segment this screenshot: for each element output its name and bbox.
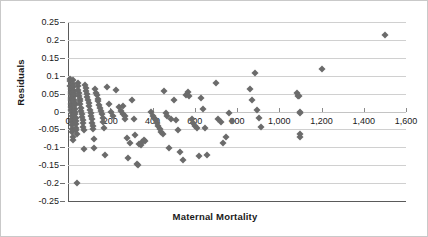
gridline bbox=[68, 76, 406, 77]
x-tick-mark bbox=[406, 108, 407, 112]
data-point bbox=[120, 102, 127, 109]
y-tick-label: -0.15 bbox=[38, 160, 59, 170]
y-tick-mark bbox=[60, 76, 65, 77]
x-tick-label: 1,400 bbox=[352, 116, 375, 126]
gridline bbox=[68, 22, 406, 23]
x-tick-mark bbox=[322, 108, 323, 112]
data-point bbox=[176, 148, 183, 155]
y-tick-label: -0.1 bbox=[43, 142, 59, 152]
x-tick-mark bbox=[237, 108, 238, 112]
data-point bbox=[318, 65, 325, 72]
data-point bbox=[246, 86, 253, 93]
data-point bbox=[173, 117, 180, 124]
y-tick-mark bbox=[60, 112, 65, 113]
plot-area: 02004006008001,0001,2001,4001,600 bbox=[68, 22, 406, 201]
data-point bbox=[222, 133, 229, 140]
data-point bbox=[127, 139, 134, 146]
y-tick-mark bbox=[60, 40, 65, 41]
y-tick-mark bbox=[60, 165, 65, 166]
data-point bbox=[203, 152, 210, 159]
data-point bbox=[256, 114, 263, 121]
data-point bbox=[90, 126, 97, 133]
data-point bbox=[102, 151, 109, 158]
y-tick-label: -0.25 bbox=[38, 196, 59, 206]
x-tick-label: 1,600 bbox=[395, 116, 418, 126]
data-point bbox=[106, 101, 113, 108]
y-tick-label: 0.25 bbox=[41, 17, 59, 27]
data-point bbox=[91, 145, 98, 152]
data-point bbox=[381, 32, 388, 39]
y-tick-label: 0.15 bbox=[41, 53, 59, 63]
y-tick-mark bbox=[60, 201, 65, 202]
gridline bbox=[68, 147, 406, 148]
data-point bbox=[165, 144, 172, 151]
y-tick-mark bbox=[60, 94, 65, 95]
y-tick-mark bbox=[60, 22, 65, 23]
data-point bbox=[174, 127, 181, 134]
data-point bbox=[134, 162, 141, 169]
y-tick-mark bbox=[60, 58, 65, 59]
x-tick-label: 1,200 bbox=[310, 116, 333, 126]
gridline bbox=[68, 129, 406, 130]
data-point bbox=[113, 86, 120, 93]
x-axis-title: Maternal Mortality bbox=[1, 211, 428, 222]
data-point bbox=[197, 94, 204, 101]
gridline bbox=[68, 165, 406, 166]
x-tick-mark bbox=[364, 108, 365, 112]
data-point bbox=[130, 115, 137, 122]
gridline bbox=[68, 183, 406, 184]
chart-figure: Residuals Maternal Mortality 0.250.20.15… bbox=[0, 0, 428, 237]
data-point bbox=[159, 131, 166, 138]
data-point bbox=[132, 132, 139, 139]
data-point bbox=[217, 119, 224, 126]
x-tick-label: 1,000 bbox=[268, 116, 291, 126]
y-tick-label: -0.2 bbox=[43, 178, 59, 188]
y-axis-tick-labels: 0.250.20.150.10.050-0.05-0.1-0.15-0.2-0.… bbox=[1, 22, 65, 202]
data-point bbox=[170, 96, 177, 103]
data-point bbox=[81, 145, 88, 152]
data-point bbox=[80, 127, 87, 134]
data-point bbox=[180, 156, 187, 163]
y-tick-label: -0.05 bbox=[38, 124, 59, 134]
x-tick-mark bbox=[195, 108, 196, 112]
y-tick-label: 0.05 bbox=[41, 89, 59, 99]
data-point bbox=[195, 152, 202, 159]
data-point bbox=[125, 155, 132, 162]
data-point bbox=[122, 116, 129, 123]
y-tick-label: 0.1 bbox=[46, 71, 59, 81]
y-tick-label: 0.2 bbox=[46, 35, 59, 45]
gridline bbox=[68, 94, 406, 95]
y-tick-mark bbox=[60, 129, 65, 130]
gridline bbox=[68, 40, 406, 41]
x-tick-mark bbox=[279, 108, 280, 112]
data-point bbox=[249, 97, 256, 104]
y-tick-mark bbox=[60, 147, 65, 148]
gridline bbox=[68, 58, 406, 59]
data-point bbox=[201, 124, 208, 131]
data-point bbox=[104, 83, 111, 90]
data-point bbox=[254, 107, 261, 114]
y-tick-label: 0 bbox=[54, 107, 59, 117]
y-tick-mark bbox=[60, 183, 65, 184]
gridline bbox=[68, 201, 406, 202]
data-point bbox=[73, 180, 80, 187]
data-point bbox=[129, 97, 136, 104]
data-point bbox=[212, 80, 219, 87]
data-point bbox=[90, 135, 97, 142]
